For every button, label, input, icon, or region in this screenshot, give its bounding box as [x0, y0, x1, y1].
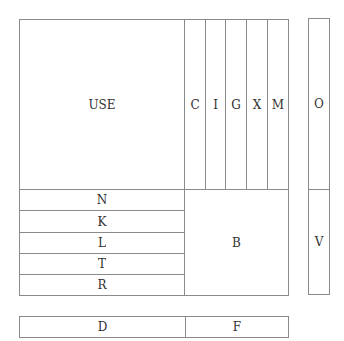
row-n: N — [19, 189, 185, 211]
bar-d-label: D — [98, 320, 108, 334]
bar-f-label: F — [233, 320, 241, 334]
column-i-label: I — [213, 98, 218, 112]
column-x-label: X — [253, 98, 262, 112]
use-block: USE — [19, 19, 185, 190]
column-c: C — [184, 19, 206, 190]
column-g-label: G — [231, 98, 241, 112]
bar-d: D — [19, 316, 186, 338]
column-m: M — [267, 19, 289, 190]
row-l-label: L — [98, 236, 106, 250]
column-i: I — [205, 19, 226, 190]
column-x: X — [246, 19, 268, 190]
row-l: L — [19, 232, 185, 254]
side-v: V — [308, 189, 330, 295]
row-k: K — [19, 210, 185, 233]
row-r-label: R — [97, 278, 106, 292]
use-label: USE — [88, 98, 115, 112]
square-b-label: B — [232, 236, 241, 250]
side-o-label: O — [314, 97, 324, 111]
row-t-label: T — [98, 257, 106, 271]
column-g: G — [225, 19, 247, 190]
row-t: T — [19, 253, 185, 275]
square-b: B — [184, 189, 289, 296]
bar-f: F — [185, 316, 289, 338]
side-v-label: V — [315, 235, 324, 249]
row-r: R — [19, 274, 185, 296]
row-n-label: N — [97, 193, 108, 207]
side-o: O — [308, 18, 330, 190]
column-m-label: M — [272, 98, 284, 112]
column-c-label: C — [190, 98, 199, 112]
row-k-label: K — [98, 215, 107, 229]
